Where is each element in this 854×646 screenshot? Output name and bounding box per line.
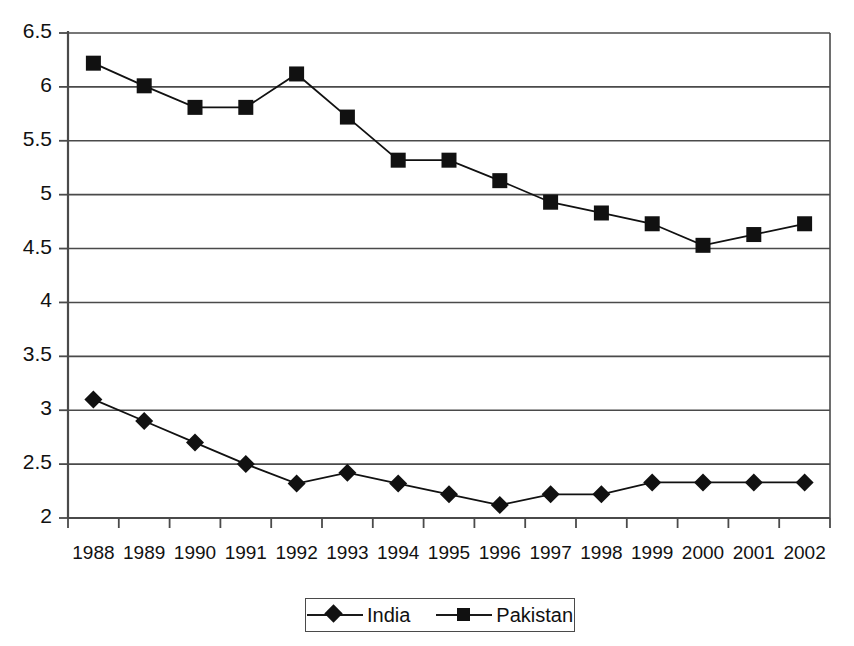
x-tick-label-1990: 1990 bbox=[170, 542, 221, 564]
data-point-india-2001 bbox=[745, 473, 763, 491]
data-point-india-1993 bbox=[338, 464, 356, 482]
x-tick-label-1989: 1989 bbox=[119, 542, 170, 564]
y-tick-label: 4.5 bbox=[0, 235, 52, 259]
data-point-pakistan-2002 bbox=[797, 216, 812, 231]
x-tick-label-1996: 1996 bbox=[474, 542, 525, 564]
data-point-pakistan-1995 bbox=[442, 153, 457, 168]
x-tick-label-1992: 1992 bbox=[271, 542, 322, 564]
x-tick-label-1991: 1991 bbox=[220, 542, 271, 564]
data-point-pakistan-1989 bbox=[137, 78, 152, 93]
y-tick-label: 5 bbox=[0, 181, 52, 205]
x-tick-label-2001: 2001 bbox=[728, 542, 779, 564]
data-point-india-2000 bbox=[694, 473, 712, 491]
data-point-pakistan-1991 bbox=[238, 100, 253, 115]
data-point-pakistan-1994 bbox=[391, 153, 406, 168]
data-point-pakistan-1997 bbox=[543, 195, 558, 210]
x-tick-label-1993: 1993 bbox=[322, 542, 373, 564]
x-tick-label-1995: 1995 bbox=[424, 542, 475, 564]
x-tick-label-1999: 1999 bbox=[627, 542, 678, 564]
data-point-pakistan-1996 bbox=[492, 173, 507, 188]
data-point-india-1998 bbox=[592, 485, 610, 503]
y-tick-label: 3.5 bbox=[0, 342, 52, 366]
data-point-pakistan-1990 bbox=[188, 100, 203, 115]
data-point-pakistan-2000 bbox=[696, 238, 711, 253]
data-point-india-1994 bbox=[389, 475, 407, 493]
data-point-india-1988 bbox=[84, 390, 102, 408]
x-tick-label-1988: 1988 bbox=[68, 542, 119, 564]
line-chart: 22.533.544.555.566.5 1988198919901991199… bbox=[0, 0, 854, 646]
x-axis-ticks bbox=[68, 518, 830, 528]
data-point-india-1995 bbox=[440, 485, 458, 503]
data-series bbox=[84, 56, 813, 514]
square-marker-icon bbox=[436, 606, 492, 624]
data-point-pakistan-1993 bbox=[340, 110, 355, 125]
data-point-india-1992 bbox=[288, 475, 306, 493]
data-point-pakistan-1998 bbox=[594, 205, 609, 220]
y-tick-label: 2.5 bbox=[0, 450, 52, 474]
x-tick-label-2000: 2000 bbox=[678, 542, 729, 564]
data-point-india-1996 bbox=[491, 496, 509, 514]
y-tick-label: 3 bbox=[0, 396, 52, 420]
chart-legend: India Pakistan bbox=[305, 598, 575, 632]
axes bbox=[68, 31, 830, 518]
data-point-india-1989 bbox=[135, 412, 153, 430]
data-point-pakistan-1992 bbox=[289, 66, 304, 81]
data-point-india-1997 bbox=[542, 485, 560, 503]
legend-label-pakistan: Pakistan bbox=[496, 604, 573, 627]
x-tick-label-1994: 1994 bbox=[373, 542, 424, 564]
y-tick-label: 2 bbox=[0, 504, 52, 528]
data-point-india-2002 bbox=[796, 473, 814, 491]
y-tick-label: 4 bbox=[0, 288, 52, 312]
x-tick-label-1998: 1998 bbox=[576, 542, 627, 564]
data-point-india-1999 bbox=[643, 473, 661, 491]
y-tick-label: 6 bbox=[0, 73, 52, 97]
data-point-pakistan-1988 bbox=[86, 56, 101, 71]
data-point-pakistan-2001 bbox=[746, 227, 761, 242]
x-tick-label-1997: 1997 bbox=[525, 542, 576, 564]
legend-entry-india: India bbox=[307, 604, 410, 627]
diamond-marker-icon bbox=[307, 606, 363, 624]
data-point-pakistan-1999 bbox=[645, 216, 660, 231]
legend-label-india: India bbox=[367, 604, 410, 627]
data-point-india-1990 bbox=[186, 434, 204, 452]
y-tick-label: 6.5 bbox=[0, 19, 52, 43]
x-tick-label-2002: 2002 bbox=[779, 542, 830, 564]
data-point-india-1991 bbox=[237, 455, 255, 473]
y-tick-label: 5.5 bbox=[0, 127, 52, 151]
y-axis-ticks bbox=[59, 33, 68, 518]
legend-entry-pakistan: Pakistan bbox=[436, 604, 573, 627]
gridlines bbox=[68, 33, 830, 518]
